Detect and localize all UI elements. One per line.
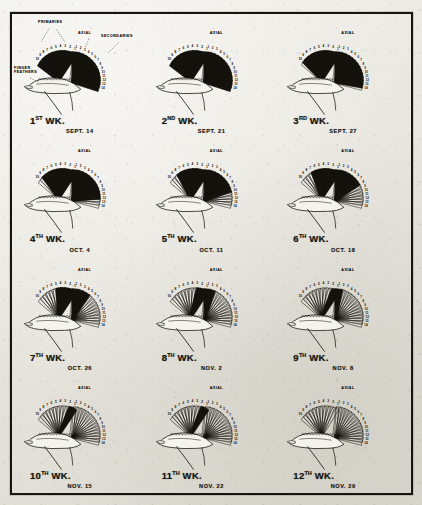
svg-text:7: 7 <box>310 285 312 289</box>
svg-text:10: 10 <box>299 293 303 297</box>
svg-text:5: 5 <box>187 45 189 49</box>
svg-text:14: 14 <box>101 440 105 444</box>
axial-label: AXIAL <box>341 149 354 153</box>
svg-text:1: 1 <box>339 281 341 285</box>
svg-text:7: 7 <box>310 403 312 407</box>
svg-text:2: 2 <box>211 164 213 168</box>
svg-text:8: 8 <box>174 405 176 409</box>
svg-text:3: 3 <box>347 402 349 406</box>
svg-text:3: 3 <box>347 166 349 170</box>
svg-text:5: 5 <box>223 170 225 174</box>
svg-text:3: 3 <box>84 284 86 288</box>
svg-text:6: 6 <box>182 46 184 50</box>
svg-text:9: 9 <box>171 53 173 57</box>
svg-text:5: 5 <box>55 400 57 404</box>
svg-text:5: 5 <box>91 407 93 411</box>
svg-text:10: 10 <box>299 57 303 61</box>
axial-label: AXIAL <box>341 268 354 272</box>
svg-text:1: 1 <box>75 45 77 49</box>
svg-text:14: 14 <box>233 86 237 90</box>
wing-panel-wk8: 123456789101234567891011121314AXIAL8TH W… <box>146 255 278 373</box>
svg-text:6: 6 <box>50 283 52 287</box>
svg-text:14: 14 <box>101 86 105 90</box>
svg-text:9: 9 <box>171 408 173 412</box>
axial-label: AXIAL <box>210 268 223 272</box>
illustration-plate: 123456789101234567891011121314AXIALPRIMA… <box>0 0 422 505</box>
svg-text:7: 7 <box>178 48 180 52</box>
svg-text:2: 2 <box>201 163 203 167</box>
svg-text:14: 14 <box>365 204 369 208</box>
secondaries-label: SECONDARIES <box>101 34 133 38</box>
svg-text:6: 6 <box>314 164 316 168</box>
svg-text:1: 1 <box>339 45 341 49</box>
svg-text:3: 3 <box>328 399 330 403</box>
svg-text:8: 8 <box>43 169 45 173</box>
svg-text:5: 5 <box>318 45 320 49</box>
wing-diagram-wk11: 123456789101234567891011121314 <box>146 373 278 491</box>
svg-text:2: 2 <box>80 282 82 286</box>
finger-feathers-label: FINGERFEATHERS <box>14 66 40 75</box>
svg-text:6: 6 <box>94 55 96 59</box>
svg-text:6: 6 <box>358 173 360 177</box>
svg-text:1: 1 <box>207 400 209 404</box>
svg-text:9: 9 <box>39 408 41 412</box>
svg-text:6: 6 <box>314 46 316 50</box>
svg-text:9: 9 <box>303 53 305 57</box>
svg-text:7: 7 <box>178 285 180 289</box>
svg-text:14: 14 <box>233 322 237 326</box>
wing-diagram-wk3: 123456789101234567891011121314 <box>277 18 409 136</box>
wing-diagram-wk8: 123456789101234567891011121314 <box>146 255 278 373</box>
wing-panel-wk4: 123456789101234567891011121314AXIAL4TH W… <box>14 136 146 254</box>
svg-text:10: 10 <box>35 175 39 179</box>
svg-text:6: 6 <box>314 401 316 405</box>
svg-text:14: 14 <box>233 204 237 208</box>
svg-text:5: 5 <box>223 52 225 56</box>
svg-text:3: 3 <box>196 163 198 167</box>
primaries-label: PRIMARIES <box>38 20 62 24</box>
wing-panel-wk11: 123456789101234567891011121314AXIAL11TH … <box>146 373 278 491</box>
svg-text:8: 8 <box>43 405 45 409</box>
svg-text:4: 4 <box>351 168 353 172</box>
svg-text:1: 1 <box>339 163 341 167</box>
wing-diagram-wk7: 123456789101234567891011121314 <box>14 255 146 373</box>
wing-diagram-wk5: 123456789101234567891011121314 <box>146 136 278 254</box>
svg-text:4: 4 <box>323 399 325 403</box>
wing-panel-wk6: 123456789101234567891011121314AXIAL6TH W… <box>277 136 409 254</box>
svg-text:4: 4 <box>191 399 193 403</box>
svg-text:4: 4 <box>323 163 325 167</box>
svg-text:6: 6 <box>94 410 96 414</box>
svg-text:2: 2 <box>69 45 71 49</box>
svg-text:4: 4 <box>219 404 221 408</box>
svg-text:3: 3 <box>64 399 66 403</box>
svg-text:6: 6 <box>358 291 360 295</box>
svg-text:10: 10 <box>35 411 39 415</box>
svg-text:5: 5 <box>187 163 189 167</box>
axial-label: AXIAL <box>210 31 223 35</box>
svg-text:2: 2 <box>80 46 82 50</box>
svg-text:4: 4 <box>191 163 193 167</box>
svg-text:8: 8 <box>43 287 45 291</box>
axial-label: AXIAL <box>78 386 91 390</box>
svg-text:8: 8 <box>306 287 308 291</box>
svg-text:3: 3 <box>84 166 86 170</box>
svg-text:3: 3 <box>216 166 218 170</box>
wing-panel-wk3: 123456789101234567891011121314AXIAL3RD W… <box>277 18 409 136</box>
wing-panel-wk10: 123456789101234567891011121314AXIAL10TH … <box>14 373 146 491</box>
svg-text:8: 8 <box>174 50 176 54</box>
svg-text:5: 5 <box>91 289 93 293</box>
svg-text:3: 3 <box>64 281 66 285</box>
svg-text:6: 6 <box>226 291 228 295</box>
svg-text:5: 5 <box>318 281 320 285</box>
svg-text:4: 4 <box>88 50 90 54</box>
svg-text:2: 2 <box>69 400 71 404</box>
svg-text:5: 5 <box>223 407 225 411</box>
svg-text:8: 8 <box>43 50 45 54</box>
svg-text:4: 4 <box>60 281 62 285</box>
svg-text:2: 2 <box>211 401 213 405</box>
axial-label: AXIAL <box>78 268 91 272</box>
svg-text:5: 5 <box>91 170 93 174</box>
svg-text:3: 3 <box>216 284 218 288</box>
svg-text:7: 7 <box>46 48 48 52</box>
svg-text:3: 3 <box>347 47 349 51</box>
svg-text:5: 5 <box>55 281 57 285</box>
